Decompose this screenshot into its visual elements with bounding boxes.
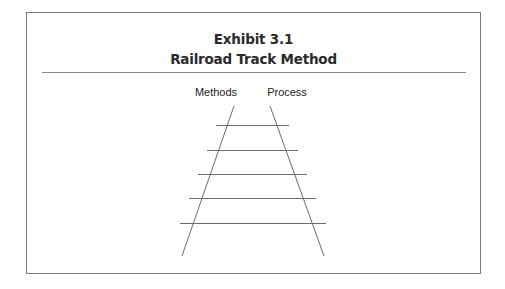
process-rail: [270, 106, 324, 256]
methods-rail: [182, 106, 234, 256]
track-ties: [180, 126, 326, 224]
process-rail-label: Process: [267, 86, 307, 98]
railroad-track-diagram: Methods Process: [0, 0, 505, 289]
methods-rail-label: Methods: [195, 86, 238, 98]
